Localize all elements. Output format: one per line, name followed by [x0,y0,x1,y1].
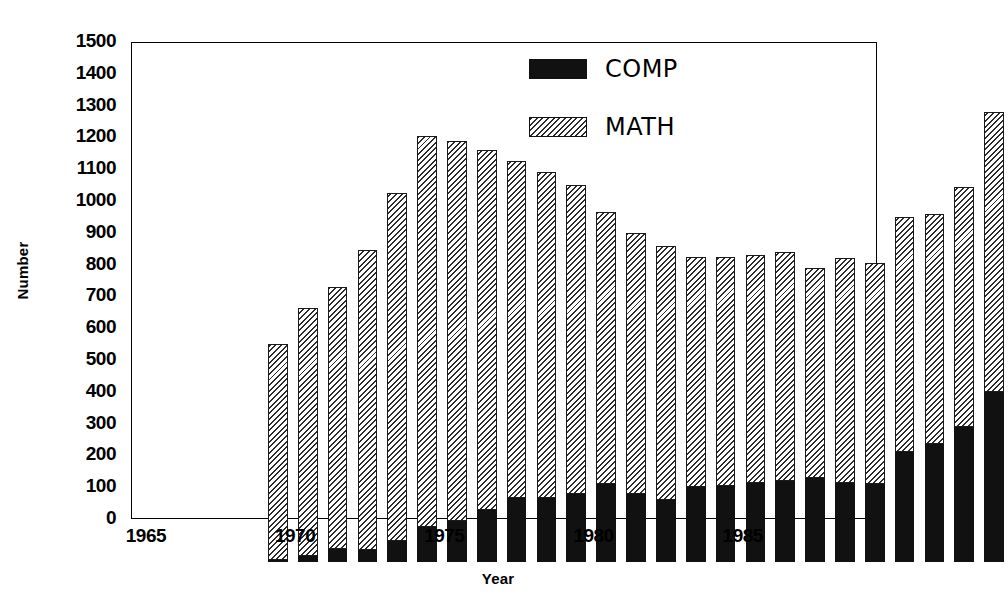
bar-segment-comp[interactable] [775,481,795,562]
bar-group[interactable] [447,85,467,562]
bar-group[interactable] [716,85,736,562]
bar-group[interactable] [566,85,586,562]
x-axis-title: Year [118,570,878,587]
y-axis-title: Number [14,211,31,331]
x-axis-tick-label: 1970 [235,525,355,547]
y-axis-tick-label: 1000 [42,190,116,209]
bar-segment-comp[interactable] [596,484,616,562]
bar-segment-math[interactable] [596,212,616,484]
bar-group[interactable] [477,85,497,562]
y-axis-tick-label: 200 [42,444,116,463]
x-axis-tick-label: 1980 [534,525,654,547]
x-axis-tick-label: 1975 [384,525,504,547]
y-axis-tick-label: 1100 [42,158,116,177]
legend-label: COMP [605,55,678,83]
x-axis-tick-label: 1985 [683,525,803,547]
legend-label: MATH [605,113,675,141]
bar-segment-comp[interactable] [805,478,825,562]
bar-segment-math[interactable] [417,136,437,527]
bar-group[interactable] [805,85,825,562]
y-axis-tick-label: 1400 [42,63,116,82]
bar-segment-math[interactable] [537,172,557,498]
bar-group[interactable] [537,85,557,562]
bar-segment-comp[interactable] [835,483,855,563]
bar-group[interactable] [596,85,616,562]
bar-group[interactable] [417,85,437,562]
bar-segment-comp[interactable] [716,486,736,562]
bar-group[interactable] [626,85,646,562]
bar-group[interactable] [925,85,945,562]
bar-segment-comp[interactable] [656,500,676,562]
bar-group[interactable] [984,85,1004,562]
y-axis-tick-label: 1500 [42,31,116,50]
bar-group[interactable] [507,85,527,562]
y-axis-tick-label: 600 [42,317,116,336]
bar-segment-math[interactable] [925,214,945,445]
bar-segment-math[interactable] [775,252,795,481]
bar-segment-comp[interactable] [954,427,974,562]
bar-segment-comp[interactable] [507,498,527,562]
x-axis-tick-label: 1965 [86,525,206,547]
bar-segment-math[interactable] [716,257,736,486]
bar-series-container [263,85,1008,562]
y-axis-tick-label: 700 [42,285,116,304]
y-axis-tick-label: 500 [42,349,116,368]
y-axis-tick-label: 900 [42,222,116,241]
bar-segment-comp[interactable] [895,452,915,562]
bar-segment-math[interactable] [566,185,586,493]
bar-segment-math[interactable] [626,233,646,494]
y-axis-tick-label: 300 [42,413,116,432]
bar-segment-math[interactable] [328,287,348,549]
bar-group[interactable] [358,85,378,562]
bar-segment-math[interactable] [656,246,676,500]
bar-group[interactable] [387,85,407,562]
bar-segment-comp[interactable] [746,483,766,563]
bar-segment-comp[interactable] [268,560,288,562]
bar-segment-math[interactable] [954,187,974,427]
bar-segment-comp[interactable] [865,484,885,562]
bar-group[interactable] [686,85,706,562]
bar-group[interactable] [746,85,766,562]
bar-segment-math[interactable] [746,255,766,482]
legend-item-comp[interactable]: COMP [529,57,759,83]
bar-group[interactable] [298,85,318,562]
y-axis-tick-label: 100 [42,476,116,495]
bar-group[interactable] [328,85,348,562]
bar-segment-comp[interactable] [358,550,378,562]
bar-group[interactable] [835,85,855,562]
bar-group[interactable] [656,85,676,562]
legend-swatch-comp [529,59,587,79]
bar-group[interactable] [954,85,974,562]
bar-segment-math[interactable] [895,217,915,452]
bar-segment-math[interactable] [507,161,527,498]
legend-item-math[interactable]: MATH [529,115,759,141]
bar-segment-comp[interactable] [328,549,348,562]
bar-segment-math[interactable] [686,257,706,488]
y-axis-tick-label: 800 [42,254,116,273]
bar-segment-math[interactable] [298,308,318,556]
legend-swatch-math [529,117,587,137]
bar-group[interactable] [775,85,795,562]
y-axis-tick-labels: 0100200300400500600700800900100011001200… [42,0,116,607]
bar-segment-math[interactable] [805,268,825,478]
bar-segment-math[interactable] [387,193,407,541]
bar-segment-math[interactable] [358,250,378,550]
bar-segment-math[interactable] [477,150,497,509]
y-axis-tick-label: 1300 [42,95,116,114]
bar-segment-math[interactable] [984,112,1004,392]
plot-area [131,42,877,519]
bar-segment-comp[interactable] [925,444,945,562]
y-axis-tick-label: 400 [42,381,116,400]
bar-group[interactable] [895,85,915,562]
bar-segment-comp[interactable] [298,556,318,562]
bar-segment-comp[interactable] [984,392,1004,562]
y-axis-tick-label: 1200 [42,126,116,145]
bar-group[interactable] [865,85,885,562]
bar-segment-math[interactable] [447,141,467,521]
bar-segment-math[interactable] [835,258,855,482]
bar-group[interactable] [268,85,288,562]
bar-segment-math[interactable] [865,263,885,484]
